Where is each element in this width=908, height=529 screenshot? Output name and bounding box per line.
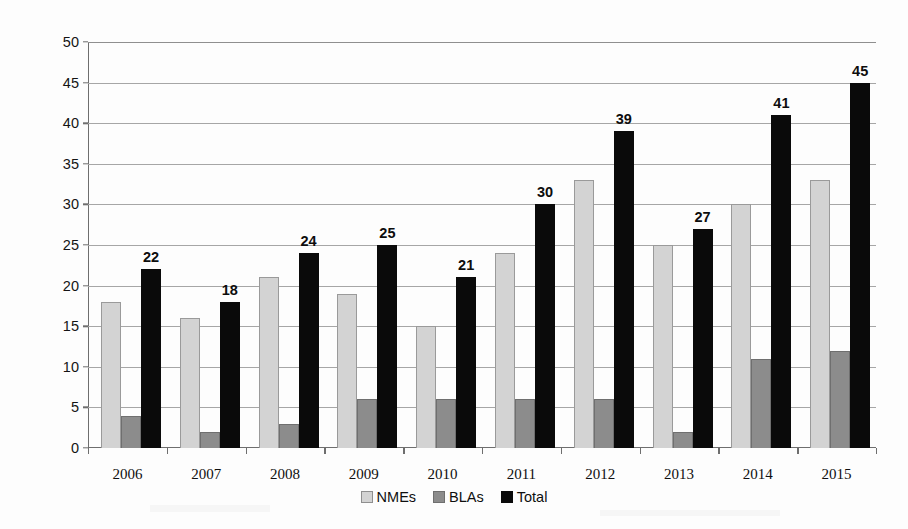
bar-blas-2007[interactable] [200, 432, 220, 448]
bar-value-label-2008: 24 [287, 233, 331, 249]
legend-swatch-total-icon [501, 491, 513, 503]
y-tick-mark-50 [83, 41, 88, 42]
x-tick-label-2006: 2006 [87, 466, 167, 483]
y-axis-title: FDA approved new drugs [32, 0, 58, 64]
legend-label: BLAs [449, 489, 484, 505]
bar-value-label-2015: 45 [838, 63, 882, 79]
bar-total-2014[interactable] [771, 115, 791, 448]
x-tick-mark-2012 [561, 448, 562, 454]
bar-nmes-2014[interactable] [731, 204, 751, 448]
bar-total-2007[interactable] [220, 302, 240, 448]
x-tick-mark-end [876, 448, 877, 454]
y-tick-mark-5 [83, 407, 88, 408]
bar-group-2014: 41 [731, 42, 791, 448]
bar-group-2011: 30 [495, 42, 555, 448]
bar-nmes-2011[interactable] [495, 253, 515, 448]
bar-nmes-2013[interactable] [653, 245, 673, 448]
x-tick-mark-2010 [403, 448, 404, 454]
y-tick-label-40: 40 [63, 115, 79, 131]
x-tick-label-2008: 2008 [245, 466, 325, 483]
y-tick-label-15: 15 [63, 318, 79, 334]
bar-blas-2015[interactable] [830, 351, 850, 448]
bar-blas-2010[interactable] [436, 399, 456, 448]
y-tick-label-45: 45 [63, 75, 79, 91]
bar-group-2015: 45 [810, 42, 870, 448]
x-tick-mark-2009 [324, 448, 325, 454]
bar-total-2011[interactable] [535, 204, 555, 448]
bars [653, 42, 713, 448]
x-tick-mark-2006 [88, 448, 89, 454]
scan-artifact [150, 505, 270, 512]
bars [337, 42, 397, 448]
legend-swatch-nmes-icon [361, 491, 373, 503]
y-tick-label-25: 25 [63, 237, 79, 253]
bar-nmes-2015[interactable] [810, 180, 830, 448]
bars [101, 42, 161, 448]
bar-nmes-2012[interactable] [574, 180, 594, 448]
bar-blas-2006[interactable] [121, 416, 141, 448]
y-tick-mark-35 [83, 163, 88, 164]
bars [416, 42, 476, 448]
y-tick-label-30: 30 [63, 196, 79, 212]
bar-blas-2012[interactable] [594, 399, 614, 448]
bar-blas-2011[interactable] [515, 399, 535, 448]
bar-value-label-2010: 21 [444, 257, 488, 273]
chart-legend: NMEsBLAsTotal [0, 489, 908, 505]
bar-nmes-2009[interactable] [337, 294, 357, 448]
legend-item-total[interactable]: Total [501, 489, 548, 505]
bar-total-2013[interactable] [693, 229, 713, 448]
x-tick-mark-2014 [718, 448, 719, 454]
y-tick-label-5: 5 [71, 399, 79, 415]
y-tick-mark-30 [83, 204, 88, 205]
y-tick-mark-25 [83, 244, 88, 245]
x-tick-label-2015: 2015 [797, 466, 877, 483]
bar-blas-2014[interactable] [751, 359, 771, 448]
bar-value-label-2014: 41 [759, 95, 803, 111]
y-tick-label-20: 20 [63, 278, 79, 294]
y-tick-label-50: 50 [63, 34, 79, 50]
x-tick-label-2012: 2012 [560, 466, 640, 483]
bar-value-label-2009: 25 [365, 225, 409, 241]
bar-total-2015[interactable] [850, 83, 870, 448]
x-tick-label-2009: 2009 [324, 466, 404, 483]
bar-group-2010: 21 [416, 42, 476, 448]
x-tick-mark-2008 [246, 448, 247, 454]
bar-value-label-2007: 18 [208, 282, 252, 298]
legend-item-nmes[interactable]: NMEs [361, 489, 416, 505]
plot-area: 05101520253035404550 2218242521303927414… [88, 42, 876, 448]
bars [495, 42, 555, 448]
legend-item-blas[interactable]: BLAs [433, 489, 484, 505]
y-tick-mark-10 [83, 366, 88, 367]
bar-nmes-2006[interactable] [101, 302, 121, 448]
bar-value-label-2013: 27 [681, 209, 725, 225]
bar-total-2008[interactable] [299, 253, 319, 448]
bar-nmes-2010[interactable] [416, 326, 436, 448]
x-tick-label-2014: 2014 [718, 466, 798, 483]
bar-blas-2013[interactable] [673, 432, 693, 448]
legend-label: NMEs [377, 489, 416, 505]
y-tick-label-0: 0 [71, 440, 79, 456]
y-tick-mark-20 [83, 285, 88, 286]
bar-group-2006: 22 [101, 42, 161, 448]
bar-blas-2009[interactable] [357, 399, 377, 448]
y-axis-title-container: FDA approved new drugs [18, 38, 44, 450]
bars [574, 42, 634, 448]
bar-total-2012[interactable] [614, 131, 634, 448]
legend-swatch-blas-icon [433, 491, 445, 503]
bar-value-label-2011: 30 [523, 184, 567, 200]
bar-value-label-2006: 22 [129, 249, 173, 265]
y-tick-mark-40 [83, 122, 88, 123]
legend-label: Total [517, 489, 548, 505]
bar-nmes-2007[interactable] [180, 318, 200, 448]
bars [180, 42, 240, 448]
bar-total-2009[interactable] [377, 245, 397, 448]
bar-total-2010[interactable] [456, 277, 476, 448]
bar-nmes-2008[interactable] [259, 277, 279, 448]
bar-group-2013: 27 [653, 42, 713, 448]
bar-total-2006[interactable] [141, 269, 161, 448]
bar-group-2012: 39 [574, 42, 634, 448]
bar-blas-2008[interactable] [279, 424, 299, 448]
scan-artifact [600, 510, 780, 516]
bar-group-2009: 25 [337, 42, 397, 448]
x-tick-label-2011: 2011 [481, 466, 561, 483]
